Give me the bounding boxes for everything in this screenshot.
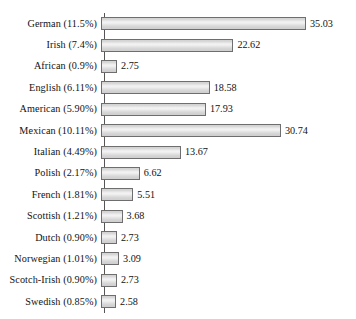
bar-zone: 18.58 (101, 77, 356, 98)
category-label: Norwegian (1.01%) (0, 254, 101, 264)
bar (101, 295, 116, 308)
bar-row: African (0.9%)2.75 (0, 56, 356, 77)
category-label: Scotch-Irish (0.90%) (0, 275, 101, 285)
bar-row: French (1.81%)5.51 (0, 184, 356, 205)
bar-zone: 3.09 (101, 248, 356, 269)
bar-value-label: 18.58 (210, 83, 237, 93)
bar-row: German (11.5%)35.03 (0, 13, 356, 34)
bar-row: American (5.90%)17.93 (0, 99, 356, 120)
bar (101, 39, 233, 52)
category-label: Swedish (0.85%) (0, 297, 101, 307)
bar-zone: 3.68 (101, 206, 356, 227)
bar-zone: 2.73 (101, 227, 356, 248)
bar (101, 146, 181, 159)
category-label: French (1.81%) (0, 190, 101, 200)
bar-row: Mexican (10.11%)30.74 (0, 120, 356, 141)
bar-zone: 2.73 (101, 270, 356, 291)
category-label: Italian (4.49%) (0, 147, 101, 157)
category-label: Dutch (0.90%) (0, 233, 101, 243)
bar-rows: German (11.5%)35.03Irish (7.4%)22.62Afri… (0, 13, 356, 312)
category-label: Scottish (1.21%) (0, 211, 101, 221)
bar-value-label: 35.03 (306, 19, 333, 29)
bar-value-label: 3.68 (123, 211, 145, 221)
bar-value-label: 5.51 (133, 190, 155, 200)
bar-zone: 30.74 (101, 120, 356, 141)
bar-zone: 35.03 (101, 13, 356, 34)
bar-zone: 2.58 (101, 291, 356, 312)
bar-row: Swedish (0.85%)2.58 (0, 291, 356, 312)
bar-value-label: 2.58 (116, 297, 138, 307)
bar (101, 231, 117, 244)
bar-value-label: 2.73 (117, 275, 139, 285)
bar-value-label: 13.67 (181, 147, 208, 157)
category-label: Polish (2.17%) (0, 168, 101, 178)
bar (101, 188, 133, 201)
bar (101, 167, 140, 180)
bar-value-label: 3.09 (119, 254, 141, 264)
category-label: American (5.90%) (0, 104, 101, 114)
category-label: Irish (7.4%) (0, 40, 101, 50)
bar-zone: 5.51 (101, 184, 356, 205)
bar-row: Irish (7.4%)22.62 (0, 34, 356, 55)
bar-value-label: 2.75 (117, 61, 139, 71)
bar (101, 81, 210, 94)
bar-value-label: 30.74 (281, 126, 308, 136)
bar-chart: German (11.5%)35.03Irish (7.4%)22.62Afri… (0, 0, 356, 319)
category-label: German (11.5%) (0, 19, 101, 29)
category-label: African (0.9%) (0, 61, 101, 71)
bar-zone: 13.67 (101, 141, 356, 162)
bar-value-label: 17.93 (206, 104, 233, 114)
bar-row: Scottish (1.21%)3.68 (0, 206, 356, 227)
bar (101, 252, 119, 265)
bar-zone: 2.75 (101, 56, 356, 77)
bar-row: Norwegian (1.01%)3.09 (0, 248, 356, 269)
bar-zone: 6.62 (101, 163, 356, 184)
bar-row: Scotch-Irish (0.90%)2.73 (0, 270, 356, 291)
bar-value-label: 2.73 (117, 233, 139, 243)
bar-row: Italian (4.49%)13.67 (0, 141, 356, 162)
bar-row: English (6.11%)18.58 (0, 77, 356, 98)
bar-value-label: 6.62 (140, 168, 162, 178)
bar (101, 103, 206, 116)
bar-value-label: 22.62 (233, 40, 260, 50)
bar (101, 17, 306, 30)
bar (101, 210, 123, 223)
category-label: English (6.11%) (0, 83, 101, 93)
bar (101, 124, 281, 137)
bar (101, 274, 117, 287)
bar (101, 60, 117, 73)
bar-row: Polish (2.17%)6.62 (0, 163, 356, 184)
bar-row: Dutch (0.90%)2.73 (0, 227, 356, 248)
category-label: Mexican (10.11%) (0, 126, 101, 136)
bar-zone: 22.62 (101, 34, 356, 55)
bar-zone: 17.93 (101, 99, 356, 120)
